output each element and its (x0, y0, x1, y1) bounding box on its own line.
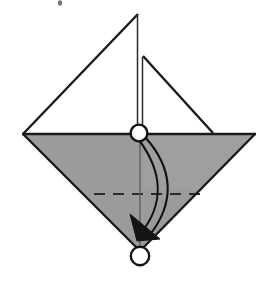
ink-speck (58, 0, 62, 6)
reference-point-center (131, 125, 148, 142)
small-flap-slope (143, 56, 213, 133)
origami-figure (0, 0, 261, 286)
origami-diagram-root: Inverted gray triangle (kite base) with … (0, 0, 261, 286)
reference-point-bottom (131, 247, 149, 265)
apex-to-left-vertex (23, 14, 138, 134)
gray-highlight-band (143, 134, 255, 190)
